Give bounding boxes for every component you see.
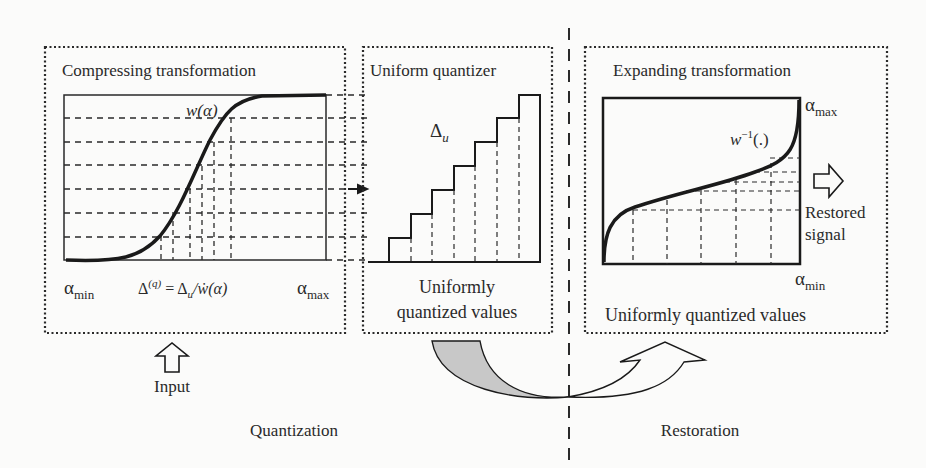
alpha-min-label: αmin: [64, 277, 95, 302]
input-label: Input: [154, 377, 190, 396]
gray-curved-band: [432, 341, 568, 398]
quantizer-caption-2: quantized values: [397, 302, 517, 322]
delta-u-label: Δu: [430, 120, 449, 145]
expand-alpha-min: αmin: [795, 268, 826, 293]
alpha-max-label: αmax: [297, 277, 330, 302]
quantizer-caption-1: Uniformly: [419, 277, 495, 297]
expand-title: Expanding transformation: [613, 61, 791, 80]
quantization-diagram: Compressing transformation w(α) αmin: [0, 0, 926, 468]
quantizer-panel: Uniform quantizer Δu Uniformly quantized…: [363, 47, 552, 333]
delta-q-formula: Δ(q) = Δu/ẇ(α): [138, 277, 227, 300]
input-arrow-icon: [156, 343, 188, 372]
output-arrow-icon: [814, 165, 843, 197]
white-curved-arrow: [568, 342, 705, 397]
restored-label-1: Restored: [805, 203, 866, 222]
w-inverse-label: w−1(.): [730, 128, 769, 149]
w-alpha-label: w(α): [186, 101, 218, 120]
restored-label-2: signal: [805, 225, 846, 244]
quantizer-title: Uniform quantizer: [370, 61, 496, 80]
expand-caption: Uniformly quantized values: [605, 305, 806, 325]
expand-panel: Expanding transformation w−1(.) αmax αmi…: [585, 47, 887, 333]
stage-label-quantization: Quantization: [250, 421, 338, 440]
expand-alpha-max: αmax: [805, 94, 838, 119]
transfer-arrow-icon: [348, 185, 367, 193]
expand-level-lines: [633, 158, 800, 264]
compress-title: Compressing transformation: [62, 61, 257, 80]
stage-label-restoration: Restoration: [661, 421, 740, 440]
compress-panel: Compressing transformation w(α) αmin: [45, 47, 368, 333]
